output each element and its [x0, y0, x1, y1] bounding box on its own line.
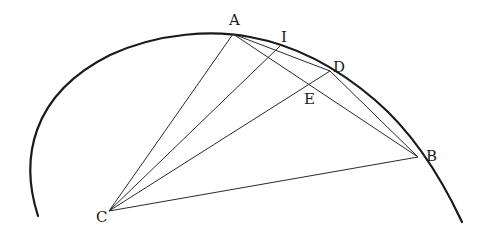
label-D: D [333, 58, 345, 76]
label-I: I [281, 28, 287, 46]
label-B: B [426, 147, 437, 165]
geometry-diagram: A I D E B C [0, 0, 482, 240]
segment-DB [330, 71, 418, 157]
segment-CB [109, 157, 418, 211]
circle-arc [30, 33, 462, 222]
label-A: A [228, 11, 240, 29]
segment-CA [109, 34, 233, 211]
segment-AB [233, 34, 418, 157]
segment-CI [109, 46, 280, 211]
label-E: E [304, 90, 315, 108]
label-C: C [96, 208, 107, 226]
segment-CD [109, 71, 330, 211]
